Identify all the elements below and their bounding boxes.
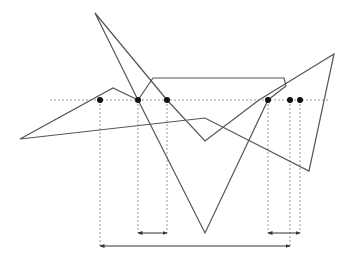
intersection-point [164,97,170,103]
intersection-point [265,97,271,103]
polygon [20,13,334,233]
span-arrows [100,233,300,246]
diagram-svg [0,0,347,260]
intersection-point [97,97,103,103]
intersection-point [135,97,141,103]
projection-lines [50,100,330,246]
intersection-point [297,97,303,103]
polygon-outline [20,13,334,233]
intersection-point [287,97,293,103]
scanline-fill-diagram [0,0,347,260]
